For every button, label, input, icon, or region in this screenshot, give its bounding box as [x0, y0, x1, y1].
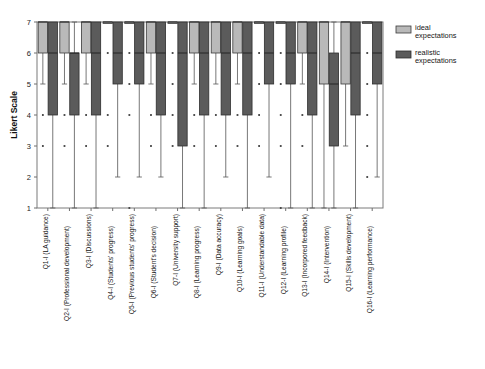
box-group-6: [146, 22, 165, 177]
outlier-point: [128, 52, 130, 54]
outlier-point: [237, 114, 239, 116]
outlier-point: [85, 145, 87, 147]
legend-swatch-realistic: [396, 51, 411, 58]
box-realistic: [91, 22, 100, 115]
y-axis: 1234567: [27, 18, 37, 213]
outlier-point: [172, 83, 174, 85]
box-realistic: [48, 22, 57, 115]
x-category-label: Q7-I (University support): [172, 214, 180, 286]
outlier-point: [280, 83, 282, 85]
box-group-2: [60, 22, 79, 208]
box-group-1: [38, 22, 57, 208]
box-realistic: [178, 22, 187, 146]
x-category-label: Q5-I (Previous students' progress): [128, 214, 136, 314]
outlier-point: [172, 52, 174, 54]
outlier-point: [366, 114, 368, 116]
x-category-label: Q13-I (Incorpored feedback): [301, 214, 309, 297]
boxplot-chart: 1234567 Likert Scale Q1-I (LA guidance)Q…: [0, 0, 485, 369]
box-series-group: [38, 22, 382, 209]
outlier-point: [258, 52, 260, 54]
box-ideal: [60, 22, 69, 53]
box-realistic: [199, 22, 208, 115]
outlier-point: [150, 145, 152, 147]
outlier-point: [301, 114, 303, 116]
outlier-point: [128, 207, 130, 209]
y-axis-label-text: Likert Scale: [9, 91, 19, 139]
y-axis-title: Likert Scale: [9, 91, 19, 139]
box-ideal: [233, 22, 242, 53]
box-group-5: [125, 22, 144, 209]
outlier-point: [301, 145, 303, 147]
box-ideal: [146, 22, 155, 53]
x-category-label: Q3-I (Discussions): [85, 214, 93, 268]
legend-label-line2: expectations: [415, 31, 457, 40]
y-tick-label: 2: [27, 173, 31, 182]
chart-canvas: 1234567 Likert Scale Q1-I (LA guidance)Q…: [0, 0, 485, 369]
legend-swatch-ideal: [396, 26, 411, 33]
legend-label-line2: expectations: [415, 56, 457, 65]
box-group-15: [341, 22, 360, 208]
outlier-point: [366, 83, 368, 85]
outlier-point: [64, 114, 66, 116]
box-realistic: [243, 22, 252, 115]
outlier-point: [85, 114, 87, 116]
outlier-point: [280, 207, 282, 209]
box-ideal: [319, 22, 328, 84]
x-category-label: Q12-I (Learning profile): [280, 226, 288, 294]
outlier-point: [193, 145, 195, 147]
box-ideal: [341, 22, 350, 84]
box-ideal: [298, 22, 307, 53]
x-axis-categories: Q1-I (LA guidance)Q2-I (Professional dev…: [42, 208, 374, 321]
box-group-16: [363, 22, 382, 178]
box-group-10: [233, 22, 252, 208]
outlier-point: [128, 114, 130, 116]
outlier-point: [280, 114, 282, 116]
box-group-7: [168, 22, 187, 208]
x-category-label: Q9-I (Data accuracy): [215, 214, 223, 275]
y-tick-label: 5: [27, 80, 31, 89]
box-realistic: [70, 53, 79, 115]
outlier-point: [258, 145, 260, 147]
box-group-14: [319, 22, 338, 208]
outlier-point: [42, 145, 44, 147]
x-category-label: Q6-I (Student's decision): [150, 226, 158, 298]
x-category-label: Q15-I (Skills development): [345, 214, 353, 292]
outlier-point: [280, 145, 282, 147]
outlier-point: [128, 83, 130, 85]
outlier-point: [258, 83, 260, 85]
y-tick-label: 6: [27, 49, 31, 58]
outlier-point: [107, 145, 109, 147]
outlier-point: [215, 114, 217, 116]
outlier-point: [237, 145, 239, 147]
box-ideal: [211, 22, 220, 53]
outlier-point: [172, 114, 174, 116]
chart-legend: idealexpectationsrealisticexpectations: [396, 23, 457, 65]
y-tick-label: 3: [27, 142, 31, 151]
outlier-point: [107, 52, 109, 54]
box-group-4: [103, 22, 122, 177]
box-realistic: [351, 22, 360, 115]
x-category-label: Q10-I (Learning goals): [236, 226, 244, 292]
outlier-point: [64, 145, 66, 147]
box-realistic: [221, 22, 230, 115]
box-group-3: [81, 22, 100, 208]
outlier-point: [193, 114, 195, 116]
outlier-point: [280, 52, 282, 54]
x-category-label: Q8-I (Learning progress): [193, 226, 201, 298]
outlier-point: [366, 176, 368, 178]
outlier-point: [366, 145, 368, 147]
outlier-point: [42, 114, 44, 116]
box-group-13: [298, 22, 317, 208]
box-group-8: [190, 22, 209, 208]
outlier-point: [107, 114, 109, 116]
x-category-label: Q16-I (Learning performance): [366, 226, 374, 313]
box-group-9: [211, 22, 230, 177]
box-realistic: [329, 53, 338, 146]
outlier-point: [172, 145, 174, 147]
box-ideal: [81, 22, 90, 53]
x-category-label: Q1-I (LA guidance): [42, 214, 50, 269]
y-tick-label: 1: [27, 204, 31, 213]
box-realistic: [156, 22, 165, 115]
y-tick-label: 4: [27, 111, 31, 120]
outlier-point: [366, 52, 368, 54]
